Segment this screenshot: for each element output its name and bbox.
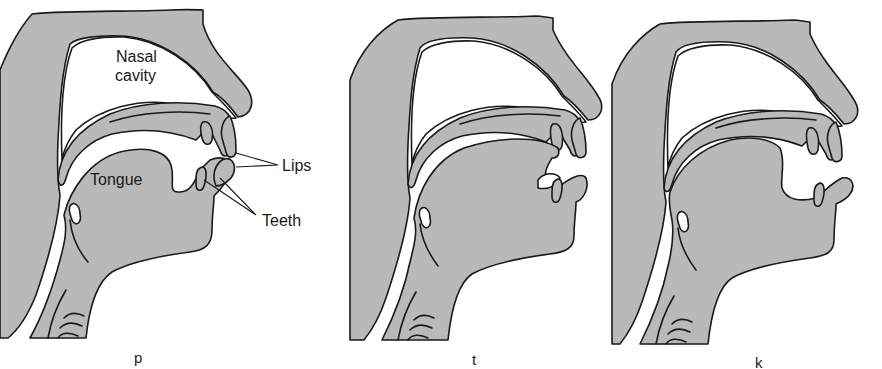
caption-k: k: [755, 355, 763, 369]
panel-k-diagram: [612, 20, 858, 344]
caption-t: t: [472, 352, 476, 368]
panel-t-diagram: [350, 16, 602, 340]
tongue-label: Tongue: [90, 171, 143, 189]
lips-label: Lips: [282, 157, 311, 175]
upper-teeth: [807, 128, 819, 155]
nasal-label-line2: cavity: [115, 67, 156, 85]
upper-teeth: [201, 122, 213, 145]
teeth-label: Teeth: [262, 212, 301, 230]
caption-p: p: [134, 350, 142, 366]
nasal-label-line1: Nasal: [116, 48, 157, 66]
lips-leader-lines: [236, 153, 278, 167]
